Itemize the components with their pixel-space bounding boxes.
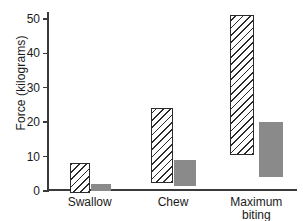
y-tick-label-0: 0: [33, 185, 40, 197]
y-axis-line: [47, 12, 49, 191]
bar-solid-gray-swallow: [91, 184, 111, 191]
y-tick-10: [43, 156, 49, 158]
bar-hatched-chew: [151, 108, 173, 182]
y-tick-label-30: 30: [27, 82, 40, 94]
bar-solid-gray-chew: [174, 160, 196, 186]
x-label-chew: Chew: [158, 196, 189, 209]
bar-hatched-swallow: [70, 163, 90, 193]
y-tick-label-50: 50: [27, 13, 40, 25]
y-tick-20: [43, 121, 49, 123]
y-tick-label-20: 20: [27, 116, 40, 128]
bar-chart: Force (kilograms) 01020304050 SwallowChe…: [0, 0, 303, 221]
y-tick-40: [43, 53, 49, 55]
y-tick-0: [43, 190, 49, 192]
plot-area: 01020304050: [47, 12, 297, 191]
x-label-maximum-biting-force: Maximum biting force: [230, 196, 282, 221]
y-tick-50: [43, 18, 49, 20]
x-label-swallow: Swallow: [68, 196, 112, 209]
bar-solid-gray-maximum-biting-force: [259, 122, 283, 177]
y-tick-label-10: 10: [27, 151, 40, 163]
y-tick-30: [43, 87, 49, 89]
bar-hatched-maximum-biting-force: [230, 15, 254, 155]
y-tick-label-40: 40: [27, 47, 40, 59]
